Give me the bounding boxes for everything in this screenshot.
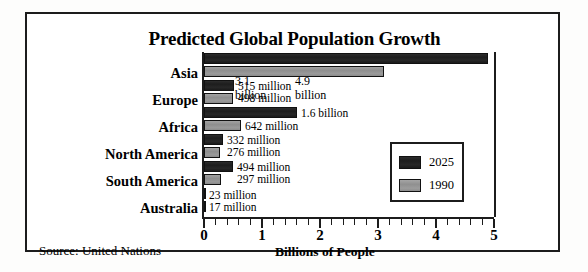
- x-tick-minor: [273, 219, 274, 225]
- x-tick-minor: [389, 219, 390, 225]
- x-tick-minor: [215, 219, 216, 225]
- x-tick-minor: [401, 219, 402, 225]
- x-tick-minor: [285, 219, 286, 225]
- annotation-asia-2025-unit: billion: [295, 89, 326, 101]
- value-label-south-america-1990: 297 million: [237, 173, 290, 185]
- bar-south-america-1990[interactable]: [204, 174, 221, 185]
- x-tick-label-4: 4: [432, 227, 440, 244]
- value-label-africa-1990: 642 million: [245, 120, 298, 132]
- x-tick-minor: [459, 219, 460, 225]
- x-tick-minor: [354, 219, 355, 225]
- bar-europe-2025[interactable]: [204, 80, 234, 91]
- x-tick-minor: [447, 219, 448, 225]
- x-tick-minor: [308, 219, 309, 225]
- x-tick-label-0: 0: [200, 227, 208, 244]
- bar-africa-2025[interactable]: [204, 107, 297, 118]
- x-tick-minor: [424, 219, 425, 225]
- x-tick-minor: [412, 219, 413, 225]
- legend-label-1990: 1990: [429, 178, 454, 193]
- source-note: Source: United Nations: [39, 243, 161, 259]
- annotation-asia-2025-value: 4.9: [295, 75, 310, 87]
- value-label-africa-2025: 1.6 billion: [301, 107, 348, 119]
- chart-frame: Predicted Global Population Growth Asia …: [25, 12, 560, 252]
- bar-australia-1990[interactable]: [204, 201, 206, 212]
- bar-north-america-1990[interactable]: [204, 147, 220, 158]
- x-tick-label-5: 5: [490, 227, 498, 244]
- x-tick-minor: [331, 219, 332, 225]
- x-axis-line: [202, 217, 494, 219]
- x-tick-minor: [227, 219, 228, 225]
- bar-africa-1990[interactable]: [204, 120, 241, 131]
- value-label-europe-1990: 498 million: [238, 92, 291, 104]
- x-tick-minor: [250, 219, 251, 225]
- x-tick-minor: [238, 219, 239, 225]
- x-tick-minor: [482, 219, 483, 225]
- x-axis-title: Billions of People: [275, 244, 375, 260]
- x-tick-minor: [343, 219, 344, 225]
- x-tick-minor: [470, 219, 471, 225]
- legend-label-2025: 2025: [429, 155, 454, 170]
- bar-south-america-2025[interactable]: [204, 161, 233, 172]
- value-label-australia-2025: 23 million: [209, 189, 257, 201]
- x-tick-minor: [296, 219, 297, 225]
- category-label-asia: Asia: [23, 65, 198, 82]
- legend-swatch-1990: [399, 179, 421, 192]
- value-label-south-america-2025: 494 million: [237, 161, 290, 173]
- scanned-page: Predicted Global Population Growth Asia …: [0, 0, 588, 272]
- legend: 2025 1990: [390, 142, 464, 202]
- plot-right-border: [494, 52, 496, 217]
- value-label-north-america-2025: 332 million: [227, 134, 280, 146]
- x-tick-minor: [366, 219, 367, 225]
- x-tick-label-1: 1: [258, 227, 266, 244]
- value-label-north-america-1990: 276 million: [227, 146, 280, 158]
- value-label-europe-2025: 515 million: [238, 80, 291, 92]
- x-tick-label-3: 3: [374, 227, 382, 244]
- x-tick-label-2: 2: [316, 227, 324, 244]
- bar-asia-1990[interactable]: [204, 66, 384, 77]
- category-label-north-america: North America: [23, 146, 198, 163]
- category-label-africa: Africa: [23, 119, 198, 136]
- chart-title: Predicted Global Population Growth: [27, 28, 562, 50]
- category-label-australia: Australia: [23, 200, 198, 217]
- bar-north-america-2025[interactable]: [204, 134, 223, 145]
- value-label-australia-1990: 17 million: [209, 201, 257, 213]
- bar-australia-2025[interactable]: [204, 188, 206, 199]
- bar-asia-2025[interactable]: [204, 53, 488, 64]
- category-label-south-america: South America: [23, 173, 198, 190]
- legend-swatch-2025: [399, 156, 421, 169]
- category-label-europe: Europe: [23, 92, 198, 109]
- bar-europe-1990[interactable]: [204, 93, 233, 104]
